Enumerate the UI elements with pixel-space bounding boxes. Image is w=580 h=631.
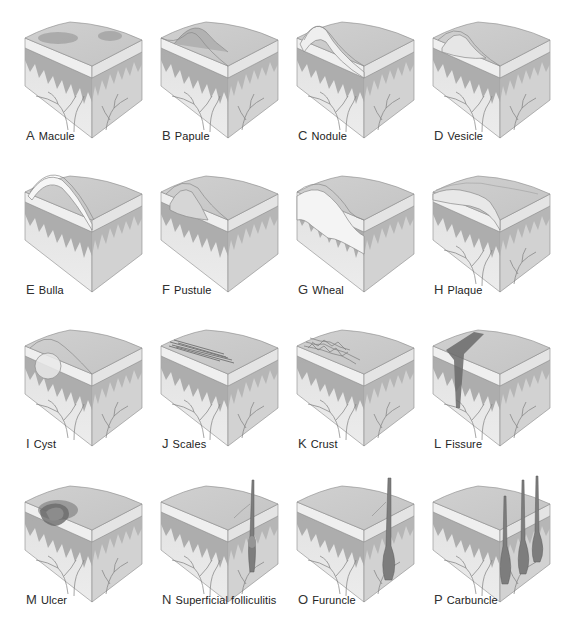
lesion-letter: M [26,592,37,607]
lesion-label: NSuperficial folliculitis [162,592,276,607]
lesion-letter: G [298,282,308,297]
lesion-cell-vesicle: DVesicle [426,12,562,166]
lesion-name: Fissure [445,438,482,450]
lesion-name: Nodule [312,130,347,142]
lesion-letter: A [26,128,35,143]
lesion-cell-cyst: ICyst [18,320,154,474]
lesion-name: Pustule [174,284,211,296]
lesion-cell-superficial-folliculitis: NSuperficial folliculitis [154,476,290,630]
lesion-name: Papule [175,130,210,142]
lesion-name: Vesicle [448,130,484,142]
lesion-cell-pustule: FPustule [154,166,290,320]
lesion-name: Carbuncle [447,594,498,606]
lesion-label: HPlaque [434,282,482,297]
lesion-letter: B [162,128,171,143]
lesion-cell-crust: KCrust [290,320,426,474]
lesion-cell-papule: BPapule [154,12,290,166]
lesion-cell-wheal: GWheal [290,166,426,320]
lesion-cell-nodule: CNodule [290,12,426,166]
lesion-name: Wheal [312,284,344,296]
lesion-label: PCarbuncle [434,592,498,607]
lesion-label: BPapule [162,128,210,143]
lesion-label: EBulla [26,282,64,297]
lesion-letter: H [434,282,444,297]
lesion-cell-scales: JScales [154,320,290,474]
lesion-cell-bulla: EBulla [18,166,154,320]
lesion-label: FPustule [162,282,211,297]
lesion-label: CNodule [298,128,347,143]
lesion-label: LFissure [434,436,482,451]
lesion-letter: N [162,592,172,607]
lesion-label: DVesicle [434,128,483,143]
lesion-letter: P [434,592,443,607]
lesion-label: OFuruncle [298,592,356,607]
lesion-name: Furuncle [312,594,356,606]
lesion-name: Ulcer [41,594,67,606]
lesion-letter: I [26,436,30,451]
lesion-label: AMacule [26,128,75,143]
lesion-cell-furuncle: OFuruncle [290,476,426,630]
lesion-name: Crust [311,438,338,450]
lesion-name: Cyst [34,438,56,450]
lesion-name: Superficial folliculitis [176,594,277,606]
lesion-name: Bulla [39,284,64,296]
lesion-letter: O [298,592,308,607]
lesion-label: MUlcer [26,592,67,607]
lesion-letter: D [434,128,444,143]
lesion-letter: J [162,436,169,451]
lesion-label: JScales [162,436,206,451]
lesion-letter: F [162,282,170,297]
lesion-letter: E [26,282,35,297]
lesion-name: Scales [173,438,207,450]
lesion-letter: L [434,436,441,451]
lesion-cell-fissure: LFissure [426,320,562,474]
lesion-name: Plaque [448,284,483,296]
lesion-cell-plaque: HPlaque [426,166,562,320]
lesion-label: GWheal [298,282,344,297]
skin-lesion-diagram-grid: AMacule [0,0,580,631]
lesion-cell-ulcer: MUlcer [18,476,154,630]
lesion-cell-carbuncle: PCarbuncle [426,476,562,630]
lesion-cell-macule: AMacule [18,12,154,166]
lesion-label: ICyst [26,436,56,451]
lesion-letter: C [298,128,308,143]
lesion-label: KCrust [298,436,338,451]
lesion-letter: K [298,436,307,451]
lesion-name: Macule [39,130,75,142]
